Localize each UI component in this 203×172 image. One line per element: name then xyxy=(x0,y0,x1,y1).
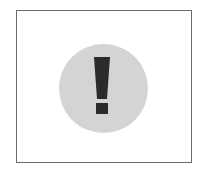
exclamation-bar xyxy=(94,57,110,99)
exclamation-alert-icon xyxy=(0,0,203,172)
exclamation-dot xyxy=(96,103,108,114)
